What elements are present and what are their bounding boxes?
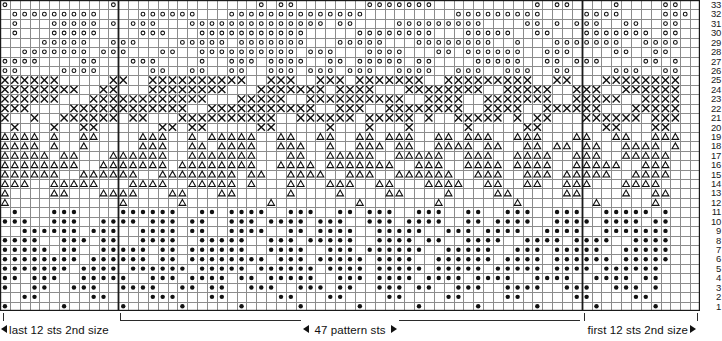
label-47-pattern-sts: 47 pattern sts xyxy=(314,324,385,336)
chart-canvas[interactable] xyxy=(0,0,700,311)
bracket-right-arrow-icon xyxy=(690,325,696,333)
row-number-gutter: 3332313029282726252423222120191817161514… xyxy=(700,0,722,311)
chart-footer-brackets: last 12 sts 2nd size 47 pattern sts firs… xyxy=(0,311,722,341)
bracket-47-pattern-sts xyxy=(120,320,301,321)
bracket-left-arrow-icon xyxy=(1,325,7,333)
bracket-center-left-arrow-icon xyxy=(303,325,309,333)
label-last-12-sts-2nd-size: last 12 sts 2nd size xyxy=(9,324,109,336)
bracket-center-right-arrow-icon xyxy=(391,325,397,333)
bracket-47-pattern-sts-right xyxy=(399,320,580,321)
knitting-chart-page: 3332313029282726252423222120191817161514… xyxy=(0,0,722,341)
bracket-tick-center-start xyxy=(120,313,121,321)
bracket-tick-center-end xyxy=(584,313,585,321)
label-first-12-sts-2nd-size: first 12 sts 2nd size xyxy=(587,324,688,336)
stitch-chart-grid[interactable] xyxy=(0,0,700,311)
row-number-1: 1 xyxy=(716,302,721,311)
bracket-tick-left-start xyxy=(3,313,4,321)
bracket-tick-right-end xyxy=(697,313,698,321)
